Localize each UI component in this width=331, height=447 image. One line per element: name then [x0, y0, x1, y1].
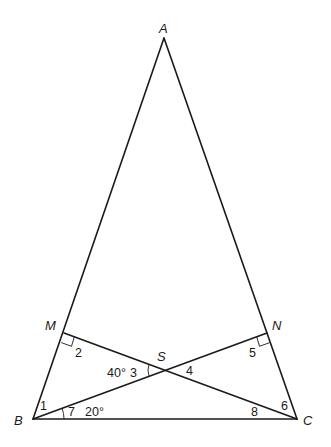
angle-label-1: 1	[40, 399, 47, 413]
angle-label-4: 4	[186, 364, 193, 378]
vertex-label-a: A	[158, 21, 168, 36]
angle-label-6: 6	[281, 399, 288, 413]
geometry-diagram: A B C M N S 1 2 3 4 5 6 7 8 40° 20°	[0, 0, 331, 447]
vertex-label-n: N	[272, 318, 282, 333]
angle-label-3: 3	[130, 366, 137, 380]
side-ac	[164, 38, 297, 419]
angle-label-2: 2	[75, 346, 82, 360]
vertex-label-s: S	[157, 349, 166, 364]
vertex-label-c: C	[303, 413, 313, 428]
given-angle-40: 40°	[107, 366, 126, 380]
vertex-label-b: B	[14, 413, 23, 428]
right-angle-marker-n	[257, 337, 270, 347]
angle-label-5: 5	[249, 346, 256, 360]
angle-arc-3	[148, 364, 149, 376]
vertex-label-m: M	[45, 318, 56, 333]
angle-label-8: 8	[251, 405, 258, 419]
angle-label-7: 7	[68, 405, 75, 419]
angle-arc-7	[62, 408, 64, 419]
right-angle-marker-m	[61, 337, 74, 347]
given-angle-20: 20°	[85, 405, 104, 419]
